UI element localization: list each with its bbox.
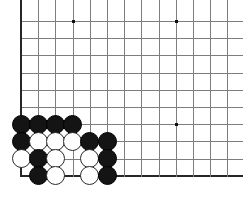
white-stone bbox=[12, 149, 31, 168]
white-stone bbox=[46, 132, 65, 151]
white-stone bbox=[80, 149, 99, 168]
black-stone bbox=[29, 115, 48, 134]
white-stone bbox=[63, 132, 82, 151]
go-board-diagram bbox=[0, 0, 243, 203]
white-stone bbox=[46, 166, 65, 185]
black-stone bbox=[12, 115, 31, 134]
black-stone bbox=[29, 149, 48, 168]
black-stone bbox=[46, 115, 65, 134]
white-stone bbox=[46, 149, 65, 168]
black-stone bbox=[63, 115, 82, 134]
black-stone bbox=[98, 166, 117, 185]
white-stone bbox=[80, 166, 99, 185]
black-stone bbox=[98, 132, 117, 151]
black-stone bbox=[29, 166, 48, 185]
white-stone bbox=[29, 132, 48, 151]
black-stone bbox=[80, 132, 99, 151]
black-stone bbox=[12, 132, 31, 151]
stone-layer bbox=[0, 0, 243, 203]
black-stone bbox=[98, 149, 117, 168]
